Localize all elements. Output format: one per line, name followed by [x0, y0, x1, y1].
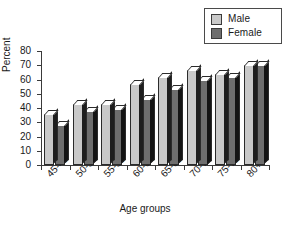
y-tick: 30 — [37, 122, 42, 123]
y-tick-label: 50 — [20, 89, 31, 99]
y-tick: 20 — [37, 137, 42, 138]
x-tick — [212, 165, 213, 170]
bar-side-face — [93, 105, 98, 164]
chart-legend: Male Female — [204, 8, 282, 44]
bar-side-face — [53, 108, 58, 164]
legend-swatch-male — [211, 14, 222, 25]
legend-item-female: Female — [211, 26, 281, 40]
bar-side-face — [196, 64, 201, 164]
x-tick — [241, 165, 242, 170]
x-tick — [155, 165, 156, 170]
y-tick-label: 30 — [20, 117, 31, 127]
bar-male — [101, 104, 111, 165]
y-tick: 80 — [37, 51, 42, 52]
bar-male — [244, 65, 254, 165]
x-tick — [70, 165, 71, 170]
bar-male — [215, 74, 225, 165]
y-tick: 60 — [37, 80, 42, 81]
bar-male — [130, 84, 140, 165]
y-axis-title: Percent — [1, 38, 12, 72]
x-tick — [269, 165, 270, 170]
x-tick — [127, 165, 128, 170]
y-tick-label: 20 — [20, 132, 31, 142]
y-tick-label: 40 — [20, 103, 31, 113]
bar-side-face — [64, 120, 69, 164]
plot-area: 01020304050607080 — [41, 51, 269, 166]
y-tick-label: 70 — [20, 60, 31, 70]
bar-side-face — [178, 84, 183, 164]
bar-chart: Male Female Percent 01020304050607080 45… — [0, 0, 290, 227]
bar-side-face — [207, 74, 212, 164]
legend-item-male: Male — [211, 12, 281, 26]
bar-side-face — [167, 71, 172, 164]
legend-swatch-female — [211, 28, 222, 39]
bar-male — [73, 104, 83, 165]
bar-male — [44, 114, 54, 165]
bar-side-face — [139, 78, 144, 164]
y-tick: 10 — [37, 151, 42, 152]
y-tick-label: 0 — [25, 160, 31, 170]
legend-label-female: Female — [228, 28, 262, 38]
y-tick: 50 — [37, 94, 42, 95]
bar-male — [187, 70, 197, 165]
x-tick — [184, 165, 185, 170]
y-tick: 70 — [37, 65, 42, 66]
y-tick: 40 — [37, 108, 42, 109]
bar-side-face — [82, 98, 87, 164]
bar-side-face — [235, 71, 240, 164]
bar-male — [158, 77, 168, 165]
bar-side-face — [264, 60, 269, 164]
bar-side-face — [253, 60, 258, 164]
x-tick — [98, 165, 99, 170]
y-tick-label: 80 — [20, 46, 31, 56]
x-axis-title: Age groups — [0, 203, 290, 214]
y-tick-label: 60 — [20, 75, 31, 85]
y-tick-label: 10 — [20, 146, 31, 156]
legend-label-male: Male — [228, 14, 250, 24]
x-tick — [41, 165, 42, 170]
bar-side-face — [224, 68, 229, 164]
bar-side-face — [150, 94, 155, 164]
bar-side-face — [110, 98, 115, 164]
bar-side-face — [121, 104, 126, 164]
